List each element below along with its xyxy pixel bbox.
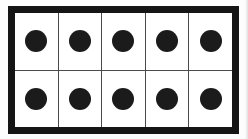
array-cell[interactable] [188,71,232,128]
figure-caption [0,135,248,139]
filled-circle-icon [112,88,134,110]
filled-circle-icon [69,88,91,110]
array-cell[interactable] [145,71,189,128]
array-cell[interactable] [58,71,102,128]
array-grid [15,13,232,127]
filled-circle-icon [25,88,47,110]
scan-edge-shading [245,0,248,139]
filled-circle-icon [200,30,222,52]
array-cell[interactable] [15,71,58,128]
figure-canvas [0,0,248,139]
array-frame [8,6,239,134]
filled-circle-icon [69,30,91,52]
array-row [15,70,232,128]
filled-circle-icon [25,30,47,52]
array-cell[interactable] [145,13,189,70]
filled-circle-icon [112,30,134,52]
array-row [15,13,232,70]
array-cell[interactable] [101,71,145,128]
array-cell[interactable] [15,13,58,70]
filled-circle-icon [156,30,178,52]
array-cell[interactable] [58,13,102,70]
filled-circle-icon [200,88,222,110]
array-cell[interactable] [188,13,232,70]
filled-circle-icon [156,88,178,110]
array-cell[interactable] [101,13,145,70]
